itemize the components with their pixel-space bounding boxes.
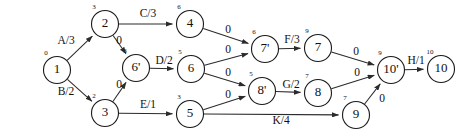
- edge-label-n6-to-n8p: 0: [225, 66, 231, 78]
- node-7p[interactable]: 7'6: [252, 28, 279, 63]
- node-earliest-time: 6: [252, 28, 256, 36]
- edge-n5-to-n9: [204, 114, 339, 115]
- node-earliest-time: 10: [427, 48, 435, 56]
- node-label: 6: [188, 60, 195, 75]
- edge-label-n5-to-n9: K/4: [272, 114, 290, 126]
- edge-label-n4-to-n7p: 0: [225, 23, 231, 35]
- network-graph-canvas: 1023326'34665537'68'579879710'91010 A/3B…: [0, 0, 463, 135]
- node-earliest-time: 2: [92, 92, 96, 100]
- node-2[interactable]: 23: [92, 3, 119, 38]
- node-label: 1: [54, 61, 61, 76]
- node-earliest-time: 3: [92, 3, 96, 11]
- node-label: 10': [383, 61, 398, 76]
- edge-n9-to-n10p: [365, 84, 381, 104]
- node-earliest-time: 3: [177, 93, 181, 101]
- node-label: 8': [258, 82, 267, 97]
- node-label: 4: [187, 15, 194, 30]
- node-label: 5: [187, 105, 194, 120]
- node-earliest-time: 3: [123, 47, 127, 55]
- node-4[interactable]: 46: [177, 3, 204, 38]
- node-label: 3: [102, 104, 109, 119]
- node-earliest-time: 5: [249, 70, 253, 78]
- node-earliest-time: 9: [305, 27, 309, 35]
- edge-label-n7p-to-n7: F/3: [284, 33, 300, 45]
- edge-label-n7-to-n10p: 0: [353, 45, 359, 57]
- edge-n6-to-n7p: [205, 54, 249, 66]
- nodes-layer: 1023326'34665537'68'579879710'91010: [44, 3, 455, 129]
- node-earliest-time: 7: [343, 94, 347, 102]
- node-label: 6': [132, 59, 141, 74]
- edge-label-n6-to-n7p: 0: [225, 43, 231, 55]
- node-label: 2: [102, 15, 109, 30]
- edge-label-n2-to-n4: C/3: [140, 7, 157, 19]
- node-6[interactable]: 65: [178, 48, 205, 83]
- edge-label-n3-to-n5: E/1: [140, 98, 156, 110]
- node-label: 7: [315, 39, 322, 54]
- node-label: 8: [315, 84, 322, 99]
- edge-n8p-to-n8: [276, 92, 301, 93]
- node-earliest-time: 9: [378, 49, 382, 57]
- edge-label-n1-to-n2: A/3: [57, 34, 75, 46]
- edge-label-n5-to-n8p: 0: [225, 88, 231, 100]
- node-8p[interactable]: 8'5: [249, 70, 276, 105]
- node-label: 9: [353, 106, 360, 121]
- node-earliest-time: 0: [44, 49, 48, 57]
- node-earliest-time: 7: [305, 72, 309, 80]
- node-1[interactable]: 10: [44, 49, 71, 84]
- edge-label-n1-to-n3: B/2: [58, 85, 75, 97]
- node-3[interactable]: 32: [92, 92, 119, 127]
- edge-n3-to-n5: [119, 113, 173, 114]
- edge-n8-to-n10p: [331, 75, 374, 89]
- edge-label-n2-to-n6p: 0: [116, 34, 122, 46]
- node-label: 10: [435, 60, 448, 75]
- node-8[interactable]: 87: [305, 72, 332, 107]
- node-6p[interactable]: 6'3: [123, 47, 150, 82]
- node-7[interactable]: 79: [305, 27, 332, 62]
- node-earliest-time: 6: [177, 3, 181, 11]
- activity-network-diagram: 1023326'34665537'68'579879710'91010 A/3B…: [0, 0, 463, 135]
- node-earliest-time: 5: [178, 48, 182, 56]
- edge-label-n8p-to-n8: G/2: [282, 78, 300, 90]
- edge-label-n8-to-n10p: 0: [354, 66, 360, 78]
- node-5[interactable]: 53: [177, 93, 204, 128]
- edge-label-n3-to-n6p: 0: [116, 78, 122, 90]
- edge-label-n9-to-n10p: 0: [379, 92, 385, 104]
- node-label: 7': [261, 40, 270, 55]
- node-10p[interactable]: 10'9: [378, 49, 405, 84]
- edge-label-n6p-to-n6: D/2: [155, 54, 173, 66]
- edge-label-n10p-to-n10: H/1: [407, 54, 425, 66]
- node-10[interactable]: 1010: [427, 48, 455, 83]
- node-9[interactable]: 97: [343, 94, 370, 129]
